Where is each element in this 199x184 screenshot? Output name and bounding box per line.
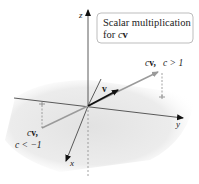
cv-positive-condition: c > 1 xyxy=(163,58,183,68)
x-axis-label: x xyxy=(69,158,74,168)
xy-plane-shading xyxy=(5,80,195,172)
z-axis-label: z xyxy=(78,10,83,20)
scalar-multiplication-diagram: Scalar multiplication for cv z y x v cv,… xyxy=(0,0,199,184)
v-label: v xyxy=(102,84,107,94)
cv-negative-condition: c < −1 xyxy=(15,140,42,150)
y-axis-label: y xyxy=(175,119,180,129)
title-line-1: Scalar multiplication xyxy=(103,17,192,28)
title-line-2: for cv xyxy=(103,29,129,40)
cv-negative-label: cv, xyxy=(27,128,38,138)
cv-positive-label: cv, xyxy=(145,58,156,68)
